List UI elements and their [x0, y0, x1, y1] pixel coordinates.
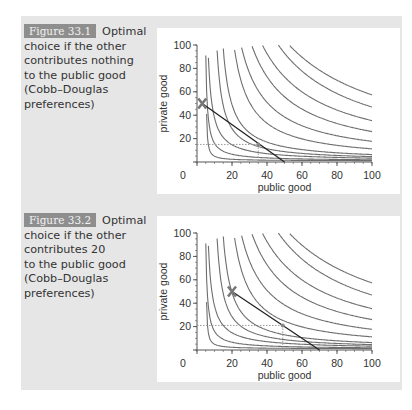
svg-text:100: 100	[363, 169, 381, 181]
svg-text:40: 40	[261, 169, 273, 181]
svg-text:60: 60	[179, 85, 191, 97]
svg-text:0: 0	[180, 357, 186, 369]
chart-1: 20406080100020406080100public goodprivat…	[157, 28, 400, 194]
indifference-curve	[278, 233, 372, 295]
svg-text:40: 40	[179, 297, 191, 309]
svg-text:private good: private good	[157, 262, 169, 320]
svg-text:80: 80	[179, 62, 191, 74]
svg-text:20: 20	[226, 169, 238, 181]
svg-text:100: 100	[173, 39, 191, 51]
chart-1-svg: 20406080100020406080100public goodprivat…	[157, 28, 400, 194]
indifference-curve	[217, 239, 372, 345]
indifference-curve	[223, 49, 372, 155]
svg-text:40: 40	[261, 357, 273, 369]
svg-text:80: 80	[179, 250, 191, 262]
chart-2-svg: 20406080100020406080100public goodprivat…	[157, 216, 400, 382]
figure-label: Figure 33.2	[24, 213, 96, 227]
chart-2: 20406080100020406080100public goodprivat…	[157, 216, 400, 382]
svg-text:100: 100	[173, 227, 191, 239]
indifference-curve	[223, 237, 372, 343]
indifference-curve	[290, 234, 372, 283]
svg-text:80: 80	[331, 169, 343, 181]
svg-text:0: 0	[180, 169, 186, 181]
figure-label: Figure 33.1	[24, 24, 96, 38]
figure-caption-1: Figure 33.1Optimal choice if the other c…	[24, 24, 154, 112]
svg-text:20: 20	[179, 132, 191, 144]
svg-text:80: 80	[331, 357, 343, 369]
svg-text:public good: public good	[258, 369, 312, 381]
svg-text:private good: private good	[157, 74, 169, 132]
figure-caption-2: Figure 33.2Optimal choice if the other c…	[24, 213, 154, 301]
indifference-curve	[278, 45, 372, 107]
indifference-curve	[217, 51, 372, 157]
svg-text:20: 20	[179, 320, 191, 332]
svg-text:60: 60	[296, 357, 308, 369]
svg-text:60: 60	[179, 273, 191, 285]
svg-text:public good: public good	[258, 181, 312, 193]
svg-text:100: 100	[363, 357, 381, 369]
indifference-curve	[290, 46, 372, 95]
svg-text:20: 20	[226, 357, 238, 369]
svg-text:40: 40	[179, 109, 191, 121]
svg-text:60: 60	[296, 169, 308, 181]
